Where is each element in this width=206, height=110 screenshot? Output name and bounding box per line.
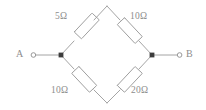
wire-r-top-left-to-top (94, 6, 107, 20)
wire-bottom-to-r-bottom-right (107, 90, 120, 103)
wire-r-bottom-left-to-bottom (94, 90, 107, 103)
terminal-marker-a (31, 53, 36, 58)
resistor-label-top-left: 5Ω (55, 12, 67, 22)
terminal-label-b: B (186, 49, 193, 59)
wire-top-to-r-top-right (107, 6, 120, 20)
resistor-label-top-right: 10Ω (130, 12, 147, 22)
resistor-body-top-right (117, 18, 142, 44)
resistor-body-bottom-left (72, 67, 97, 93)
resistor-label-bottom-right: 20Ω (131, 86, 148, 96)
resistor-label-bottom-left: 10Ω (51, 86, 68, 96)
terminal-label-a: A (16, 49, 23, 59)
junction-node-right (150, 53, 155, 58)
circuit-diagram: 5Ω 10Ω 10Ω 20Ω A B (0, 0, 206, 110)
terminal-marker-b (177, 53, 182, 58)
resistor-body-top-left (74, 13, 99, 39)
junction-node-left (59, 53, 64, 58)
circuit-schematic-canvas (0, 0, 206, 110)
